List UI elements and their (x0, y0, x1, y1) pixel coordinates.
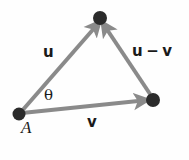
vector-v-label: v (87, 115, 97, 130)
u-minus-v-second-term: v (162, 42, 172, 60)
vector-diagram-figure: u u−v v θ A (0, 0, 189, 160)
vector-u-minus-v-label: u−v (132, 44, 173, 59)
minus-operator: − (143, 44, 162, 59)
angle-theta-label: θ (44, 88, 53, 103)
vector-u-label: u (43, 45, 54, 60)
vertex-dot-head-of-v (146, 93, 160, 107)
vertex-dot-head-of-u (93, 11, 107, 25)
u-minus-v-first-term: u (132, 42, 143, 60)
point-a-label: A (21, 119, 31, 136)
